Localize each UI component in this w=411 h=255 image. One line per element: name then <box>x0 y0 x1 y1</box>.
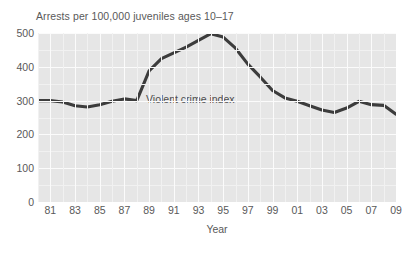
x-tick-label: 91 <box>162 205 186 216</box>
gridline-vertical <box>384 33 385 202</box>
gridline-horizontal-minor <box>38 151 396 152</box>
gridline-horizontal <box>38 101 396 102</box>
x-tick-label: 95 <box>211 205 235 216</box>
gridline-vertical <box>248 33 249 202</box>
gridline-horizontal-minor <box>38 118 396 119</box>
gridline-vertical <box>260 33 261 202</box>
gridline-vertical <box>347 33 348 202</box>
gridline-vertical <box>112 33 113 202</box>
gridline-horizontal-minor <box>38 50 396 51</box>
gridline-vertical <box>174 33 175 202</box>
gridline-horizontal-minor <box>38 185 396 186</box>
gridline-vertical <box>198 33 199 202</box>
x-axis: 818385878991939597990103050709 <box>38 205 396 221</box>
gridline-vertical <box>223 33 224 202</box>
gridline-vertical <box>87 33 88 202</box>
chart-figure: Arrests per 100,000 juveniles ages 10–17… <box>0 0 411 255</box>
gridline-vertical <box>100 33 101 202</box>
gridline-horizontal-minor <box>38 84 396 85</box>
gridline-vertical <box>38 33 39 202</box>
gridline-vertical <box>149 33 150 202</box>
x-tick-label: 07 <box>359 205 383 216</box>
y-tick-label: 100 <box>0 163 34 174</box>
gridline-vertical <box>359 33 360 202</box>
gridline-vertical <box>63 33 64 202</box>
gridline-vertical <box>124 33 125 202</box>
y-tick-label: 0 <box>0 197 34 208</box>
gridline-vertical <box>236 33 237 202</box>
y-tick-label: 400 <box>0 62 34 73</box>
gridline-horizontal <box>38 168 396 169</box>
gridline-vertical <box>310 33 311 202</box>
y-tick-label: 200 <box>0 129 34 140</box>
gridline-vertical <box>211 33 212 202</box>
gridline-vertical <box>285 33 286 202</box>
x-tick-label: 01 <box>285 205 309 216</box>
plot-area: Violent crime index <box>38 33 396 202</box>
gridline-vertical <box>50 33 51 202</box>
series-annotation-label: Violent crime index <box>146 93 235 105</box>
x-tick-label: 05 <box>335 205 359 216</box>
x-tick-label: 93 <box>186 205 210 216</box>
y-tick-label: 500 <box>0 28 34 39</box>
x-tick-label: 09 <box>384 205 408 216</box>
x-tick-label: 99 <box>261 205 285 216</box>
x-tick-label: 85 <box>88 205 112 216</box>
x-tick-label: 83 <box>63 205 87 216</box>
x-tick-label: 03 <box>310 205 334 216</box>
gridline-horizontal <box>38 134 396 135</box>
x-tick-label: 97 <box>236 205 260 216</box>
gridline-vertical <box>322 33 323 202</box>
x-tick-label: 89 <box>137 205 161 216</box>
gridline-horizontal <box>38 67 396 68</box>
gridline-vertical <box>334 33 335 202</box>
gridline-vertical <box>161 33 162 202</box>
gridline-vertical <box>137 33 138 202</box>
gridline-vertical <box>297 33 298 202</box>
x-tick-label: 87 <box>112 205 136 216</box>
chart-title: Arrests per 100,000 juveniles ages 10–17 <box>36 10 234 22</box>
x-tick-label: 81 <box>38 205 62 216</box>
gridline-vertical <box>75 33 76 202</box>
gridline-vertical <box>273 33 274 202</box>
y-tick-label: 300 <box>0 96 34 107</box>
x-axis-title: Year <box>38 223 396 235</box>
y-axis: 5004003002001000 <box>0 33 34 202</box>
gridline-vertical <box>371 33 372 202</box>
gridline-horizontal <box>38 33 396 34</box>
gridline-vertical <box>186 33 187 202</box>
